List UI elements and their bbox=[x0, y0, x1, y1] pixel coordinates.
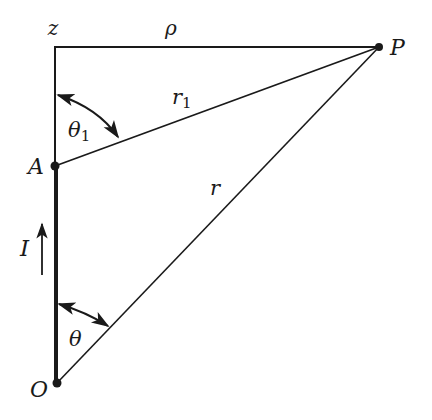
point-O-dot bbox=[53, 379, 62, 388]
point-A-label: A bbox=[26, 154, 44, 179]
wire-field-diagram: z ρ P A O r1 r θ1 θ I bbox=[0, 0, 432, 420]
theta-label: θ bbox=[69, 327, 82, 351]
z-axis-label: z bbox=[47, 16, 59, 40]
r-label: r bbox=[210, 176, 222, 200]
theta-arc-arrow bbox=[59, 304, 108, 326]
current-label: I bbox=[19, 235, 30, 261]
point-P-dot bbox=[375, 43, 383, 51]
theta1-label: θ1 bbox=[68, 118, 90, 145]
point-O-label: O bbox=[30, 377, 48, 402]
point-P-label: P bbox=[389, 35, 406, 60]
point-A-dot bbox=[51, 162, 60, 171]
r-line bbox=[57, 47, 379, 383]
r1-label: r1 bbox=[172, 85, 192, 112]
diagram-svg: z ρ P A O r1 r θ1 θ I bbox=[0, 0, 432, 420]
r1-label-sub: 1 bbox=[182, 94, 192, 112]
rho-label: ρ bbox=[164, 16, 177, 40]
theta1-label-sub: 1 bbox=[81, 127, 91, 145]
r1-line bbox=[55, 47, 379, 166]
theta1-label-main: θ bbox=[68, 118, 81, 142]
